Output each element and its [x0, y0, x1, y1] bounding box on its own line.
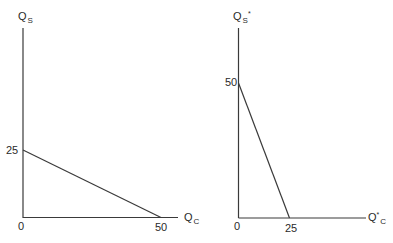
left-x-axis-label-main: Q — [184, 211, 193, 223]
right-y-axis-label-main: Q — [233, 10, 242, 22]
right-y-axis-label: QS* — [233, 11, 251, 23]
right-x-axis-label-main: Q — [368, 211, 377, 223]
left-x-axis-label: QC — [184, 212, 199, 224]
left-x-axis-label-sub: C — [194, 217, 200, 226]
left-y-axis-label: QS — [18, 11, 33, 23]
right-origin-label: 0 — [234, 221, 240, 232]
right-y-tick-50: 50 — [225, 77, 237, 88]
right-x-axis-label-star: * — [377, 211, 380, 218]
right-x-axis-label: Q*C — [368, 212, 386, 224]
right-x-axis-label-sub: C — [380, 217, 386, 226]
right-y-axis-label-star: * — [248, 10, 251, 17]
left-y-tick-25: 25 — [6, 145, 18, 156]
left-x-tick-50: 50 — [155, 222, 167, 233]
left-budget-line — [23, 150, 161, 218]
right-budget-line — [239, 83, 290, 218]
left-y-axis-label-sub: S — [28, 16, 33, 25]
diagram-canvas — [0, 0, 393, 243]
right-y-axis-label-sub: S — [243, 16, 248, 25]
left-origin-label: 0 — [18, 221, 24, 232]
right-x-tick-25: 25 — [285, 223, 297, 234]
left-y-axis-label-main: Q — [18, 10, 27, 22]
